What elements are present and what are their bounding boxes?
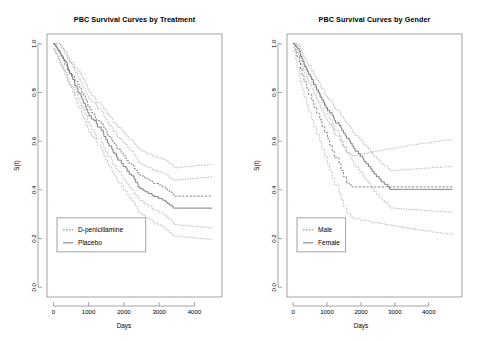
plot-title-gender: PBC Survival Curves by Gender [319, 15, 431, 24]
legend-label-placebo: Placebo [78, 239, 102, 246]
x-tick-label-treatment: 1000 [82, 308, 96, 315]
plot-panel-treatment: PBC Survival Curves by Treatment0.00.20.… [0, 0, 240, 341]
x-tick-label-gender: 1000 [320, 308, 334, 315]
ci-upper-placebo [53, 44, 212, 181]
survival-curve-female [293, 44, 452, 190]
x-axis-label-gender: Days [354, 322, 369, 330]
y-axis-label-treatment: S(t) [13, 160, 21, 170]
y-tick-label-treatment: 0.6 [31, 136, 38, 145]
x-tick-label-treatment: 0 [52, 308, 56, 315]
x-tick-label-gender: 0 [291, 308, 295, 315]
x-axis-label-treatment: Days [117, 322, 132, 330]
ci-lower-male [293, 51, 452, 234]
y-axis-label-gender: S(t) [253, 160, 261, 170]
x-tick-label-gender: 2000 [354, 308, 368, 315]
x-tick-label-treatment: 4000 [188, 308, 202, 315]
y-tick-label-gender: 1.0 [271, 39, 278, 48]
plot-frame-gender [287, 34, 462, 297]
y-tick-label-treatment: 0.4 [31, 185, 38, 194]
survival-curve-male [293, 44, 452, 187]
x-tick-label-treatment: 2000 [117, 308, 131, 315]
plot-panel-gender: PBC Survival Curves by Gender0.00.20.40.… [240, 0, 480, 341]
y-tick-label-gender: 0.8 [271, 88, 278, 97]
legend-label-d-penicillamine: D-penicillamine [78, 226, 123, 234]
ci-lower-placebo [53, 49, 212, 240]
y-tick-label-gender: 0.2 [271, 234, 278, 243]
ci-upper-female [293, 44, 452, 171]
survival-curve-placebo [53, 44, 212, 208]
y-tick-label-treatment: 0.2 [31, 234, 38, 243]
plot-svg-treatment: PBC Survival Curves by Treatment0.00.20.… [0, 0, 240, 341]
y-tick-label-treatment: 0.0 [31, 282, 38, 291]
legend-box-treatment [57, 218, 146, 252]
plot-svg-gender: PBC Survival Curves by Gender0.00.20.40.… [240, 0, 480, 341]
figure-canvas: PBC Survival Curves by Treatment0.00.20.… [0, 0, 480, 341]
y-tick-label-treatment: 0.8 [31, 88, 38, 97]
plot-title-treatment: PBC Survival Curves by Treatment [74, 15, 196, 24]
survival-curve-d-penicillamine [53, 44, 212, 196]
y-tick-label-gender: 0.4 [271, 185, 278, 194]
legend-label-female: Female [318, 239, 340, 246]
x-tick-label-gender: 3000 [388, 308, 402, 315]
ci-lower-female [293, 47, 452, 212]
x-tick-label-gender: 4000 [422, 308, 436, 315]
y-tick-label-gender: 0.0 [271, 282, 278, 291]
legend-label-male: Male [318, 226, 333, 233]
x-tick-label-treatment: 3000 [152, 308, 166, 315]
ci-lower-d-penicillamine [53, 49, 212, 228]
ci-upper-d-penicillamine [53, 44, 212, 168]
legend-box-gender [297, 218, 346, 252]
y-tick-label-treatment: 1.0 [31, 39, 38, 48]
y-tick-label-gender: 0.6 [271, 136, 278, 145]
